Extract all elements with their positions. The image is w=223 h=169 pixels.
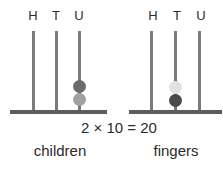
rod-units xyxy=(198,31,201,113)
column-label-hundreds: H xyxy=(145,7,161,24)
bead-units-bottom xyxy=(73,93,86,106)
column-label-units: U xyxy=(71,7,87,24)
rod-hundreds xyxy=(32,31,35,113)
place-value-diagram: H T U H T U 2 × 10 = 20 children fingers xyxy=(0,0,223,169)
caption-children: children xyxy=(18,142,102,159)
bead-tens-bottom xyxy=(169,94,182,107)
rod-tens xyxy=(55,31,58,113)
bead-tens-top xyxy=(169,81,182,94)
caption-fingers: fingers xyxy=(134,142,218,159)
column-label-tens: T xyxy=(169,7,185,24)
column-label-tens: T xyxy=(48,7,64,24)
column-label-hundreds: H xyxy=(25,7,41,24)
bead-units-top xyxy=(73,80,86,93)
abacus-base-bar xyxy=(10,110,107,114)
rod-hundreds xyxy=(150,31,153,113)
equation-text: 2 × 10 = 20 xyxy=(59,119,179,136)
abacus-base-bar xyxy=(129,110,222,114)
column-label-units: U xyxy=(193,7,209,24)
